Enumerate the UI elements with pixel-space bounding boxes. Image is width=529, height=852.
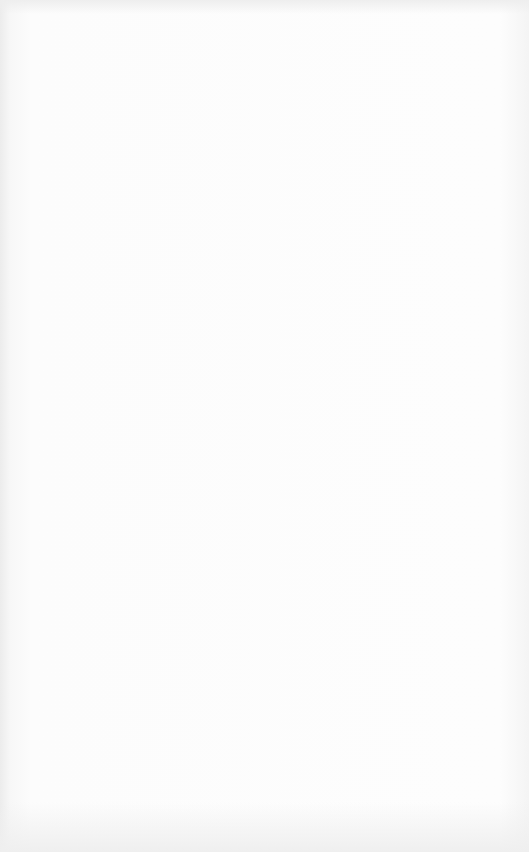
lined-paper: [0, 0, 529, 852]
